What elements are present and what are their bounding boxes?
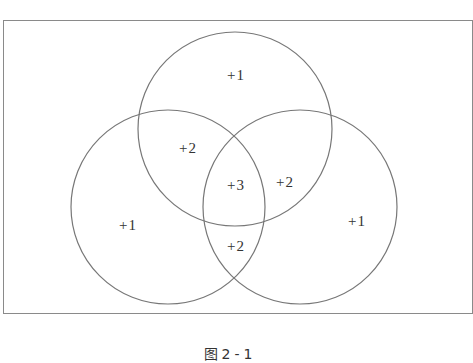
region-label-top-left: +2 [179,140,197,157]
circle-left [71,110,265,304]
region-label-top-right: +2 [276,174,294,191]
region-label-left-only: +1 [119,217,137,234]
figure-caption: 图2-1 [204,343,257,363]
region-label-left-right: +2 [227,238,245,255]
circle-right [203,110,397,304]
circle-top [138,32,332,226]
region-label-center: +3 [227,177,245,194]
region-label-top-only: +1 [227,67,245,84]
region-label-right-only: +1 [348,213,366,230]
